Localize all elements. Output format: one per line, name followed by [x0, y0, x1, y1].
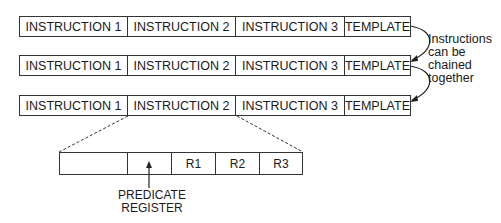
chain-arrow-1 [410, 26, 430, 60]
r2-field: R2 [216, 153, 260, 174]
expand-line-right [237, 116, 303, 152]
instruction-format-detail: R1 R2 R3 [59, 152, 303, 175]
r3-field: R3 [260, 153, 302, 174]
instruction-2-cell: INSTRUCTION 2 [128, 17, 236, 36]
template-cell: TEMPLATE [345, 56, 410, 75]
template-cell: TEMPLATE [345, 96, 410, 115]
r1-field: R1 [172, 153, 216, 174]
opcode-field [60, 153, 128, 174]
instruction-1-cell: INSTRUCTION 1 [20, 17, 128, 36]
instruction-2-cell: INSTRUCTION 2 [128, 56, 236, 75]
instruction-3-cell: INSTRUCTION 3 [236, 96, 345, 115]
instruction-1-cell: INSTRUCTION 1 [20, 96, 128, 115]
predicate-register-label: PREDICATE REGISTER [112, 189, 192, 215]
predicate-field [128, 153, 172, 174]
bundle-row-2: INSTRUCTION 1 INSTRUCTION 2 INSTRUCTION … [19, 55, 411, 76]
expand-line-left [59, 116, 128, 152]
instruction-3-cell: INSTRUCTION 3 [236, 17, 345, 36]
chain-note-line: together [428, 72, 492, 85]
chain-arrow-2 [410, 66, 430, 100]
predicate-label-line: REGISTER [112, 202, 192, 215]
instruction-2-cell: INSTRUCTION 2 [128, 96, 236, 115]
arrowhead-1 [410, 55, 418, 62]
bundle-row-3: INSTRUCTION 1 INSTRUCTION 2 INSTRUCTION … [19, 95, 411, 116]
chain-note: Instructions can be chained together [428, 33, 492, 85]
template-cell: TEMPLATE [345, 17, 410, 36]
bundle-row-1: INSTRUCTION 1 INSTRUCTION 2 INSTRUCTION … [19, 16, 411, 37]
instruction-1-cell: INSTRUCTION 1 [20, 56, 128, 75]
arrowhead-2 [410, 95, 418, 102]
instruction-3-cell: INSTRUCTION 3 [236, 56, 345, 75]
